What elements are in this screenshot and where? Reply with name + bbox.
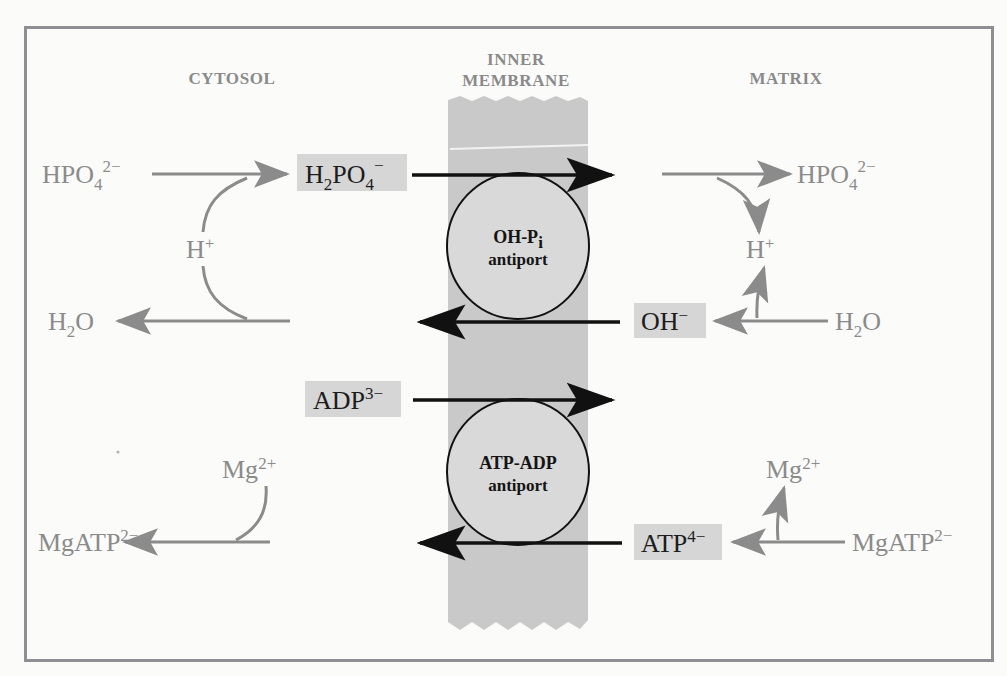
- carrier-atp-adp-line1: ATP-ADP: [479, 453, 557, 473]
- scan-speck: [116, 450, 119, 453]
- figure-root: CYTOSOL INNER MEMBRANE MATRIX OH-Pi anti…: [0, 0, 1007, 676]
- carrier-atp-adp-line2: antiport: [488, 476, 548, 495]
- header-membrane: MEMBRANE: [462, 71, 570, 90]
- carrier-oh-pi-line2: antiport: [488, 250, 548, 269]
- carrier-oh-pi[interactable]: OH-Pi antiport: [447, 173, 589, 319]
- header-inner: INNER: [487, 50, 545, 69]
- header-matrix: MATRIX: [749, 69, 822, 88]
- carrier-atp-adp[interactable]: ATP-ADP antiport: [447, 399, 589, 545]
- transport-diagram: CYTOSOL INNER MEMBRANE MATRIX OH-Pi anti…: [0, 0, 1007, 676]
- header-cytosol: CYTOSOL: [188, 69, 275, 88]
